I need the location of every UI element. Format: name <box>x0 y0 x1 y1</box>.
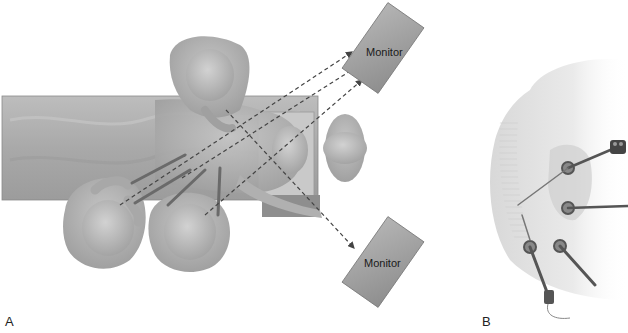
monitor-top-label: Monitor <box>366 46 403 58</box>
torso <box>490 59 628 300</box>
or-setup-illustration: Monitor Monitor <box>0 0 460 333</box>
port-placement-illustration <box>470 0 628 333</box>
panel-a-or-setup: Monitor Monitor A <box>0 0 460 333</box>
monitor-bottom-label: Monitor <box>364 257 401 269</box>
panel-b-port-placement: B <box>470 0 628 333</box>
panel-b-label: B <box>482 314 491 329</box>
camera-head-icon <box>610 140 626 154</box>
panel-a-label: A <box>5 314 14 329</box>
cable-connector <box>544 290 570 318</box>
surgeon-left <box>63 178 146 269</box>
anesthesiologist <box>323 114 367 182</box>
